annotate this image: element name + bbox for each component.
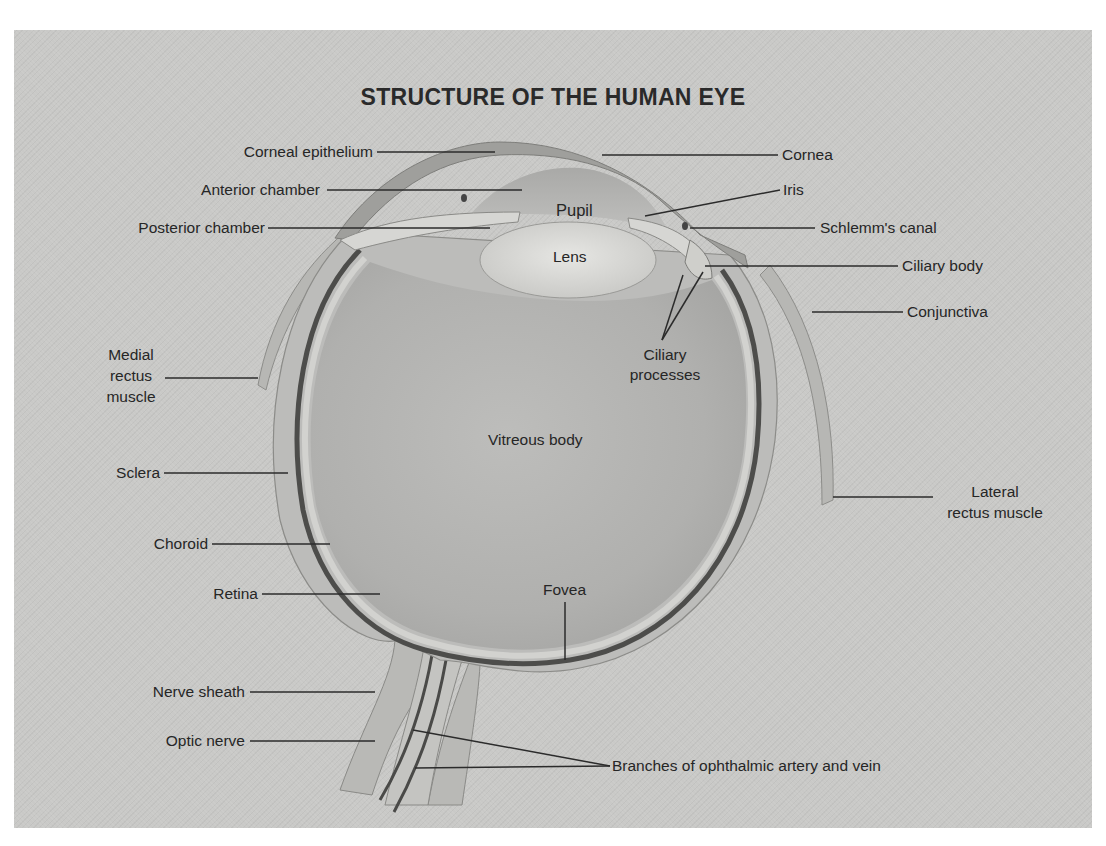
label-posterior-chamber: Posterior chamber [138, 218, 265, 238]
label-conjunctiva: Conjunctiva [907, 302, 988, 322]
schlemms-canal-left [461, 194, 467, 202]
label-anterior-chamber: Anterior chamber [201, 180, 320, 200]
label-iris: Iris [783, 180, 804, 200]
label-optic-nerve: Optic nerve [166, 731, 245, 751]
label-fovea: Fovea [543, 580, 586, 600]
label-medial-rectus-2: rectus [98, 366, 164, 386]
label-schlemms-canal: Schlemm's canal [820, 218, 937, 238]
diagram-title: STRUCTURE OF THE HUMAN EYE [0, 84, 1106, 111]
label-medial-rectus-1: Medial [98, 345, 164, 365]
label-choroid: Choroid [154, 534, 208, 554]
label-sclera: Sclera [116, 463, 160, 483]
label-nerve-sheath: Nerve sheath [153, 682, 245, 702]
label-pupil: Pupil [556, 200, 593, 220]
label-vitreous-body: Vitreous body [488, 430, 583, 450]
label-ophthalmic-branches: Branches of ophthalmic artery and vein [612, 756, 881, 776]
label-lateral-rectus-1: Lateral [935, 482, 1055, 502]
label-ciliary-body: Ciliary body [902, 256, 983, 276]
label-cornea: Cornea [782, 145, 833, 165]
label-corneal-epithelium: Corneal epithelium [244, 142, 373, 162]
label-lateral-rectus-2: rectus muscle [935, 503, 1055, 523]
label-medial-rectus-3: muscle [98, 387, 164, 407]
label-ciliary-processes-2: processes [620, 365, 710, 385]
schlemms-canal-shape [682, 222, 688, 230]
eye-illustration [0, 0, 1106, 846]
label-retina: Retina [213, 584, 258, 604]
label-ciliary-processes-1: Ciliary [620, 345, 710, 365]
label-lens: Lens [553, 247, 587, 267]
